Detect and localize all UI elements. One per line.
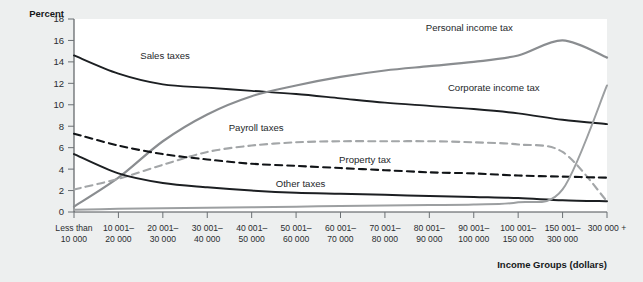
x-tick-label-line: 300 000 + <box>588 223 626 233</box>
x-tick-label-line: 50 001– <box>281 223 312 233</box>
x-tick-label-line: 90 001– <box>458 223 489 233</box>
y-tick-label: 14 <box>53 56 64 67</box>
x-tick-label-line: 150 000 <box>503 234 534 244</box>
y-tick-label: 8 <box>59 121 64 132</box>
x-tick-label-line: 10 000 <box>61 234 88 244</box>
x-tick-label-line: 20 000 <box>105 234 132 244</box>
y-tick-label: 4 <box>59 164 64 175</box>
x-tick-label-line: 80 001– <box>414 223 445 233</box>
x-tick-label-line: Less than <box>55 223 92 233</box>
y-tick-label: 0 <box>59 206 64 217</box>
x-tick-label: 30 001–40 000 <box>192 223 223 244</box>
x-tick-label: 100 001–150 000 <box>500 223 536 244</box>
x-tick-label-line: 40 000 <box>194 234 221 244</box>
x-tick-label-line: 70 001– <box>369 223 400 233</box>
x-tick-label-line: 90 000 <box>416 234 443 244</box>
y-tick-label: 6 <box>59 142 64 153</box>
series-label-other-taxes: Other taxes <box>276 178 326 189</box>
series-label-sales-taxes: Sales taxes <box>140 50 190 61</box>
series-label-property-tax: Property tax <box>339 154 391 165</box>
x-tick-label: 150 001–300 000 <box>545 223 581 244</box>
y-tick-label: 2 <box>59 185 64 196</box>
y-tick-label: 16 <box>53 35 64 46</box>
x-tick-label-line: 70 000 <box>327 234 354 244</box>
x-tick-label-line: 30 000 <box>150 234 177 244</box>
tax-share-by-income-line-chart: 024681012141618 Percent Less than10 0001… <box>0 0 643 282</box>
series-label-personal-income-tax: Personal income tax <box>426 22 513 33</box>
x-tick-label: 40 001–50 000 <box>236 223 267 244</box>
x-axis-title: Income Groups (dollars) <box>497 259 607 270</box>
x-tick-label: 10 001–20 000 <box>103 223 134 244</box>
y-tick-label: 12 <box>53 78 64 89</box>
x-tick-label: 50 001–60 000 <box>281 223 312 244</box>
x-tick-label-line: 50 000 <box>239 234 266 244</box>
x-tick-label: 300 000 + <box>588 223 626 233</box>
x-tick-label-line: 10 001– <box>103 223 134 233</box>
x-tick-label: 80 001–90 000 <box>414 223 445 244</box>
y-axis-title: Percent <box>29 8 65 19</box>
x-tick-label-line: 30 001– <box>192 223 223 233</box>
x-tick-label-line: 300 000 <box>547 234 578 244</box>
series-label-corporate-income-tax: Corporate income tax <box>448 82 540 93</box>
x-tick-label-line: 60 000 <box>283 234 310 244</box>
x-tick-label-line: 100 000 <box>458 234 489 244</box>
series-label-payroll-taxes: Payroll taxes <box>229 122 284 133</box>
x-tick-label-line: 100 001– <box>500 223 536 233</box>
x-tick-label-line: 60 001– <box>325 223 356 233</box>
x-tick-label-line: 20 001– <box>147 223 178 233</box>
x-tick-label: 90 001–100 000 <box>458 223 489 244</box>
x-tick-label: 20 001–30 000 <box>147 223 178 244</box>
x-tick-label: 60 001–70 000 <box>325 223 356 244</box>
x-tick-label: 70 001–80 000 <box>369 223 400 244</box>
x-tick-label-line: 150 001– <box>545 223 581 233</box>
x-tick-label-line: 80 000 <box>372 234 399 244</box>
x-tick-label-line: 40 001– <box>236 223 267 233</box>
y-tick-label: 10 <box>53 99 64 110</box>
